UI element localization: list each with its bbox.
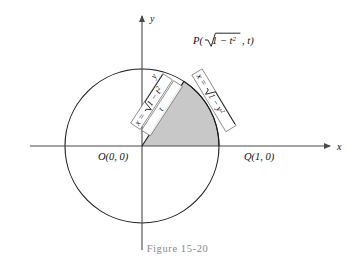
point-p-radicand: 1 − t [212, 35, 234, 46]
point-p-label: P( 1 − t2 , t) [192, 33, 254, 47]
point-q-label: Q(1, 0) [244, 151, 275, 163]
point-o-label: O(0, 0) [98, 151, 129, 163]
svg-text:P(: P( [192, 35, 204, 47]
point-p-tail: , t) [242, 35, 254, 47]
point-p-head: P( [192, 35, 204, 47]
left-label-var-y: y [148, 72, 159, 82]
svg-text:1 − t2: 1 − t2 [212, 35, 237, 46]
figure-container: y x P( 1 − t2 , t) O(0, 0) Q(1, 0) [0, 0, 355, 273]
x-axis-label: x [336, 141, 342, 152]
y-axis-label: y [149, 13, 155, 24]
point-p-exponent: 2 [233, 35, 237, 43]
figure-caption: Figure 15-20 [0, 243, 355, 254]
svg-text:, t): , t) [242, 35, 254, 47]
circle-sector-diagram: y x P( 1 − t2 , t) O(0, 0) Q(1, 0) [0, 0, 355, 273]
